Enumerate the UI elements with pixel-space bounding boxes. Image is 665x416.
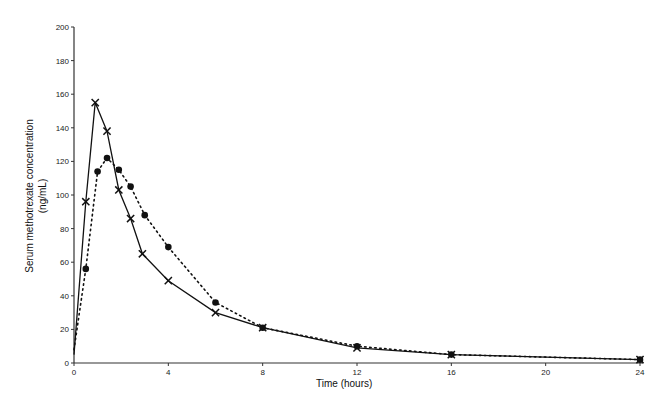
y-tick-label: 120: [56, 157, 70, 166]
line-chart: 02040608010012014016018020004812162024 T…: [0, 0, 665, 416]
series-line-1: [74, 103, 640, 360]
x-axis-title: Time (hours): [316, 378, 372, 389]
circle-marker: [212, 299, 219, 306]
x-tick-label: 12: [353, 368, 362, 377]
axes: 02040608010012014016018020004812162024: [56, 23, 645, 377]
y-axis-unit: (ng/mL): [37, 179, 48, 213]
circle-marker: [127, 183, 134, 190]
y-tick-label: 20: [60, 325, 69, 334]
circle-marker: [141, 212, 148, 219]
cross-marker: [127, 215, 134, 222]
y-tick-label: 80: [60, 225, 69, 234]
cross-marker: [139, 250, 146, 257]
x-tick-label: 4: [166, 368, 171, 377]
circle-marker: [354, 343, 361, 350]
circle-marker: [637, 356, 644, 363]
x-tick-label: 0: [72, 368, 77, 377]
y-tick-label: 40: [60, 292, 69, 301]
x-tick-label: 24: [636, 368, 645, 377]
y-tick-label: 200: [56, 23, 70, 32]
circle-marker: [94, 168, 101, 175]
x-tick-label: 16: [447, 368, 456, 377]
y-tick-label: 140: [56, 124, 70, 133]
circle-marker: [165, 244, 172, 251]
cross-marker: [165, 277, 172, 284]
circle-marker: [82, 266, 89, 273]
y-tick-label: 60: [60, 258, 69, 267]
cross-marker: [212, 309, 219, 316]
y-tick-label: 100: [56, 191, 70, 200]
circle-marker: [448, 351, 455, 358]
series-line-2: [74, 158, 640, 360]
x-tick-label: 20: [541, 368, 550, 377]
y-axis-title: Serum methotrexate concentration: [24, 119, 35, 272]
y-tick-label: 160: [56, 90, 70, 99]
x-tick-label: 8: [260, 368, 265, 377]
data-series: [74, 99, 644, 363]
circle-marker: [116, 167, 123, 174]
circle-marker: [259, 324, 266, 331]
y-tick-label: 180: [56, 57, 70, 66]
circle-marker: [104, 155, 111, 162]
y-tick-label: 0: [65, 359, 70, 368]
